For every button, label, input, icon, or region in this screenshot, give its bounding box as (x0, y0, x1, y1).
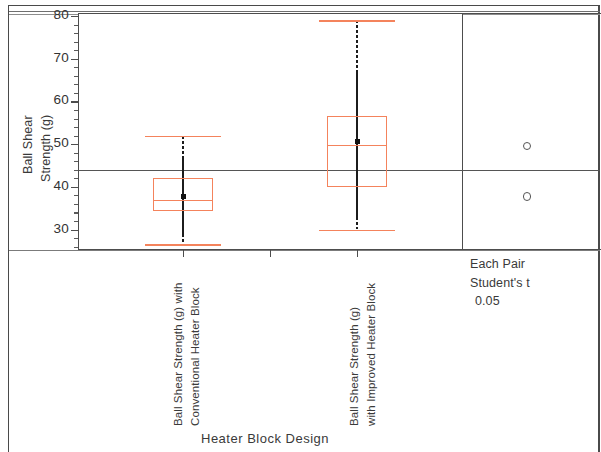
y-tick-label-80: 80 (53, 7, 69, 22)
y-axis-title-line1: Ball Shear (21, 115, 35, 174)
mean-marker-2 (355, 139, 360, 144)
y-tick-minor (74, 204, 78, 205)
upper-whisker-cap-1 (145, 136, 221, 137)
x-category-label-1: Ball Shear Strength (g) with Conventiona… (172, 256, 352, 272)
y-tick-minor (74, 170, 78, 171)
y-tick-minor (74, 153, 78, 154)
y-tick-major-40 (71, 187, 78, 188)
y-tick-minor (74, 110, 78, 111)
y-tick-minor (74, 195, 78, 196)
panel-divider (462, 14, 463, 250)
y-tick-minor (74, 67, 78, 68)
x-category-label-2-line1: Ball Shear Strength (g) (348, 307, 360, 426)
y-tick-minor (74, 161, 78, 162)
y-tick-minor (74, 238, 78, 239)
comparison-alpha-value: 0.05 (470, 292, 530, 311)
comparison-circle-1[interactable] (523, 142, 531, 150)
top-scan-rule (9, 11, 600, 12)
x-category-label-2-line2: with Improved Heater Block (365, 283, 377, 426)
median-line-2 (327, 145, 387, 146)
lower-whisker-cap-2 (319, 230, 395, 231)
y-tick-major-50 (71, 144, 78, 145)
x-axis-title: Heater Block Design (0, 431, 530, 446)
iqr-box-2 (327, 116, 387, 186)
bottom-scan-rule (9, 250, 600, 251)
y-tick-minor (74, 127, 78, 128)
y-axis-title: Ball Shear Strength (g) (8, 62, 62, 182)
comparison-circle-2[interactable] (523, 192, 532, 201)
lower-whisker-cap-1 (145, 244, 221, 245)
y-tick-label-30: 30 (53, 221, 69, 236)
y-tick-major-30 (71, 230, 78, 231)
y-tick-major-80 (71, 16, 78, 17)
spine-dash-top-1 (182, 136, 185, 159)
y-tick-minor (74, 221, 78, 222)
spine-dash-top-2 (356, 20, 359, 73)
y-axis: 304050607080 (78, 13, 79, 250)
plot-frame (78, 13, 463, 250)
y-tick-minor (74, 212, 78, 213)
x-category-label-1-line1: Ball Shear Strength (g) with (172, 283, 184, 426)
comparison-method-line2: Student's t (470, 274, 530, 293)
x-category-label-1-line2: Conventional Heater Block (189, 287, 201, 426)
y-tick-minor (74, 50, 78, 51)
spine-dash-bottom-2 (356, 217, 359, 230)
y-tick-minor (74, 93, 78, 94)
y-tick-minor (74, 178, 78, 179)
y-tick-minor (74, 25, 78, 26)
y-tick-minor (74, 42, 78, 43)
upper-whisker-cap-2 (319, 20, 395, 21)
spine-dash-bottom-1 (182, 234, 185, 244)
y-tick-minor (74, 84, 78, 85)
comparison-method-line1: Each Pair (470, 255, 530, 274)
mean-marker-1 (181, 194, 186, 199)
oneway-analysis-chart: 304050607080 Ball Shear Strength (g) Bal… (0, 0, 601, 452)
y-tick-minor (74, 76, 78, 77)
y-tick-minor (74, 136, 78, 137)
y-tick-major-60 (71, 101, 78, 102)
y-axis-title-line2: Strength (g) (39, 115, 53, 182)
y-tick-minor (74, 33, 78, 34)
y-tick-minor (74, 247, 78, 248)
comparison-panel-frame (462, 13, 601, 250)
median-line-1 (153, 200, 213, 201)
y-tick-major-70 (71, 59, 78, 60)
y-tick-minor (74, 119, 78, 120)
comparison-method-caption: Each Pair Student's t 0.05 (470, 255, 530, 311)
